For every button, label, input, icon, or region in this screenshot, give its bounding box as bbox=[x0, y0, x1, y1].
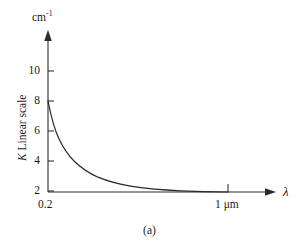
y-tick-label-2: 2 bbox=[18, 185, 40, 197]
curve-k-lambda bbox=[48, 101, 228, 192]
y-axis-unit-label: cm-1 bbox=[32, 12, 53, 24]
x-tick-label-end: 1 μm bbox=[215, 199, 239, 211]
x-tick-label-start: 0.2 bbox=[38, 199, 52, 211]
y-tick-label-4: 4 bbox=[18, 155, 40, 167]
y-axis-unit-exponent: -1 bbox=[46, 9, 53, 18]
y-tick-label-8: 8 bbox=[18, 95, 40, 107]
plot-canvas bbox=[0, 0, 299, 251]
y-tick-label-6: 6 bbox=[18, 125, 40, 137]
figure-caption: (a) bbox=[0, 224, 299, 236]
x-axis-arrow-icon bbox=[265, 188, 276, 195]
x-axis-symbol: λ bbox=[283, 185, 289, 198]
y-axis-arrow-icon bbox=[44, 30, 52, 41]
y-tick-label-10: 10 bbox=[18, 65, 40, 77]
y-axis-unit-base: cm bbox=[32, 11, 46, 23]
figure-panel: cm-1 K Linear scale 10 8 6 4 2 0.2 1 μm … bbox=[0, 0, 299, 251]
